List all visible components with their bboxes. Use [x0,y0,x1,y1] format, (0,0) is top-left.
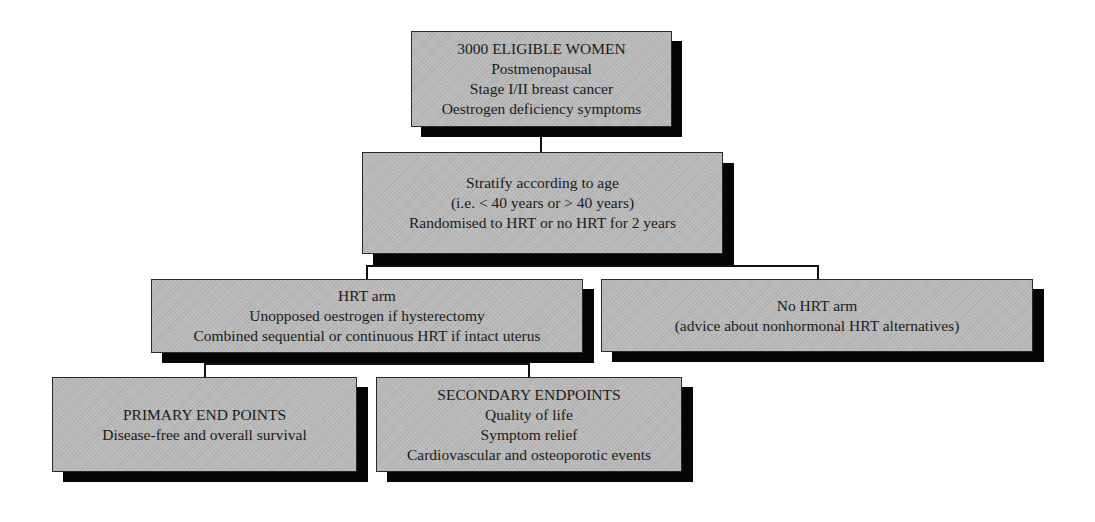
hrt-arm-box: HRT arm Unopposed oestrogen if hysterect… [151,279,583,353]
eligible-title: 3000 ELIGIBLE WOMEN [457,39,625,59]
no-hrt-arm-title: No HRT arm [777,296,858,316]
eligible-line: Oestrogen deficiency symptoms [442,99,642,119]
hrt-arm-title: HRT arm [338,286,396,306]
secondary-line: Quality of life [485,405,573,425]
connector-stratify-branch-horizontal [366,265,819,267]
stratify-line: Stratify according to age [466,173,619,193]
hrt-arm-line: Combined sequential or continuous HRT if… [193,326,540,346]
primary-line: Disease-free and overall survival [102,425,306,445]
connector-to-no-hrt-arm [817,265,819,279]
stratify-line: Randomised to HRT or no HRT for 2 years [409,213,676,233]
secondary-title: SECONDARY ENDPOINTS [437,385,620,405]
eligible-line: Stage I/II breast cancer [470,79,613,99]
eligible-women-box: 3000 ELIGIBLE WOMEN Postmenopausal Stage… [411,31,672,127]
secondary-line: Symptom relief [481,425,578,445]
stratify-box: Stratify according to age (i.e. < 40 yea… [362,152,723,254]
secondary-endpoints-box: SECONDARY ENDPOINTS Quality of life Symp… [376,377,682,472]
connector-to-hrt-arm [366,265,368,279]
eligible-line: Postmenopausal [491,59,592,79]
secondary-line: Cardiovascular and osteoporotic events [407,445,651,465]
connector-to-primary [204,363,206,377]
stratify-line: (i.e. < 40 years or > 40 years) [451,193,634,213]
primary-endpoints-box: PRIMARY END POINTS Disease-free and over… [52,377,357,472]
no-hrt-arm-line: (advice about nonhormonal HRT alternativ… [675,316,960,336]
connector-eligible-stratify [540,136,542,152]
connector-to-secondary [528,363,530,377]
hrt-arm-line: Unopposed oestrogen if hysterectomy [249,306,484,326]
connector-hrt-branch-horizontal [204,363,530,365]
primary-title: PRIMARY END POINTS [123,405,286,425]
no-hrt-arm-box: No HRT arm (advice about nonhormonal HRT… [601,279,1033,352]
